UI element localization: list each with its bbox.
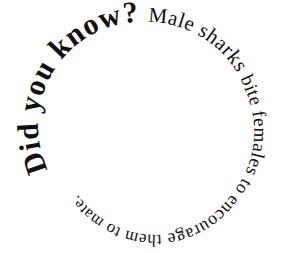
spiral-svg: Did you know? Male sharks bite females t… (0, 0, 286, 253)
segment-to-encourage: to encourage (161, 176, 257, 251)
spiral-text: Did you know? Male sharks bite females t… (11, 0, 272, 251)
segment-them-to: them to (97, 217, 162, 250)
segment-male-sharks: Male sharks (148, 3, 257, 81)
spiral-text-graphic: Did you know? Male sharks bite females t… (0, 0, 286, 253)
segment-mate: mate. (66, 192, 106, 231)
segment-did-you-know: Did you know? (11, 0, 149, 179)
segment-bite-females: bite females (237, 71, 272, 185)
